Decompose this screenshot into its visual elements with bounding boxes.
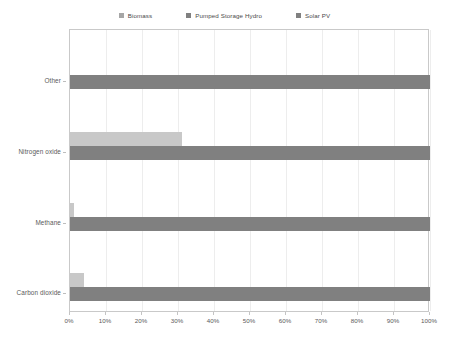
bar[interactable] [70,146,430,160]
bars-layer [70,30,428,311]
x-axis-tick [249,312,250,315]
bar[interactable] [70,273,84,287]
plot-area [69,29,429,312]
x-axis-label: 30% [171,317,184,324]
x-axis-tick [357,312,358,315]
x-axis-label: 10% [99,317,112,324]
bar-group [70,172,428,243]
x-axis-label: 40% [207,317,220,324]
legend-entry[interactable]: Biomass [119,12,152,19]
legend-entry[interactable]: Pumped Storage Hydro [186,12,262,19]
y-axis-label: Other [45,77,61,84]
x-axis-tick [393,312,394,315]
chart-container: BiomassPumped Storage HydroSolar PV Othe… [0,0,449,351]
y-axis-tick [63,81,66,82]
bar[interactable] [70,287,430,301]
legend-entry[interactable]: Solar PV [296,12,330,19]
x-axis-label: 50% [243,317,256,324]
bar[interactable] [70,203,74,217]
legend-swatch-icon [296,13,301,18]
gridline [430,30,431,311]
y-axis-label: Methane [35,219,61,226]
bar[interactable] [70,75,430,89]
legend-label: Biomass [128,12,152,19]
x-axis-tick [177,312,178,315]
y-axis-label: Nitrogen oxide [18,148,61,155]
bar-group [70,101,428,172]
x-axis-tick [69,312,70,315]
chart-legend: BiomassPumped Storage HydroSolar PV [0,12,449,19]
bar-group [70,242,428,313]
x-axis-tick [429,312,430,315]
bar-group [70,30,428,101]
x-axis-tick [141,312,142,315]
y-axis-tick [63,223,66,224]
legend-label: Solar PV [305,12,330,19]
x-axis-label: 60% [279,317,292,324]
x-axis-label: 80% [351,317,364,324]
y-axis-tick [63,293,66,294]
x-axis-label: 0% [64,317,73,324]
x-axis-label: 90% [387,317,400,324]
legend-swatch-icon [119,13,124,18]
x-axis-tick [213,312,214,315]
y-axis-tick [63,152,66,153]
x-axis-tick [105,312,106,315]
y-axis: OtherNitrogen oxideMethaneCarbon dioxide [0,29,66,312]
bar[interactable] [70,217,430,231]
x-axis-label: 20% [135,317,148,324]
x-axis-tick [321,312,322,315]
bar[interactable] [70,132,182,146]
x-axis-tick [285,312,286,315]
legend-swatch-icon [186,13,191,18]
x-axis: 0%10%20%30%40%50%60%70%80%90%100% [69,312,429,332]
legend-label: Pumped Storage Hydro [195,12,262,19]
x-axis-label: 70% [315,317,328,324]
x-axis-label: 100% [421,317,437,324]
y-axis-label: Carbon dioxide [17,289,61,296]
